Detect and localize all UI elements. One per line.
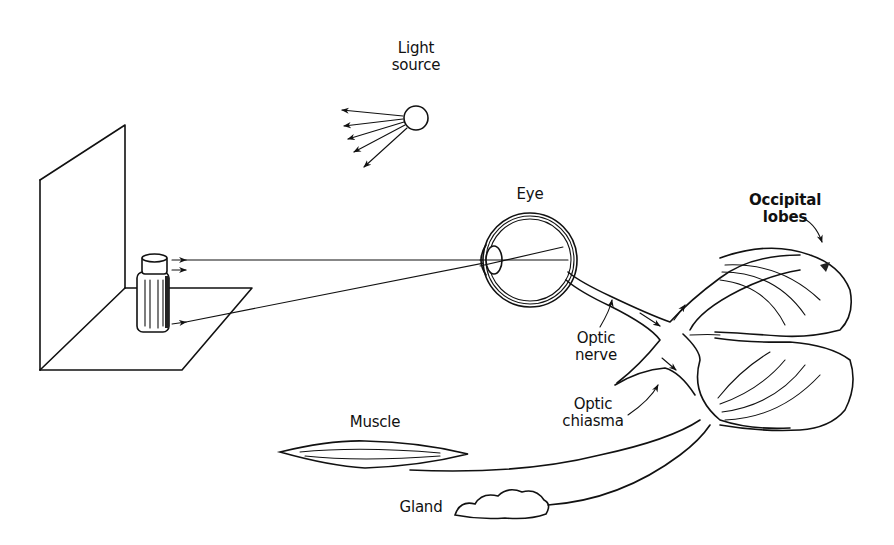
label-occipital-line1: Occipital <box>730 192 840 209</box>
label-optic-nerve-line2: nerve <box>566 347 626 364</box>
label-pointers <box>600 217 822 415</box>
label-light-source-line2: source <box>376 57 456 74</box>
visual-pathway-diagram <box>0 0 894 545</box>
label-optic-nerve: Optic nerve <box>566 330 626 364</box>
label-occipital-line2: lobes <box>730 209 840 226</box>
label-light-source: Light source <box>376 40 456 74</box>
label-light-source-line1: Light <box>376 40 456 57</box>
label-optic-nerve-line1: Optic <box>566 330 626 347</box>
label-gland: Gland <box>393 499 449 516</box>
gland-icon <box>455 425 710 519</box>
eye-icon <box>480 213 577 307</box>
label-eye: Eye <box>505 186 555 203</box>
label-occipital-lobes: Occipital lobes <box>730 192 840 226</box>
screen-and-floor-icon <box>40 125 252 370</box>
label-optic-chiasma: Optic chiasma <box>558 396 628 430</box>
label-optic-chiasma-line1: Optic <box>558 396 628 413</box>
occipital-lobes-icon <box>690 248 853 430</box>
bottle-icon <box>137 254 169 332</box>
label-muscle: Muscle <box>340 414 410 431</box>
label-optic-chiasma-line2: chiasma <box>558 413 628 430</box>
light-source-icon <box>342 106 428 167</box>
